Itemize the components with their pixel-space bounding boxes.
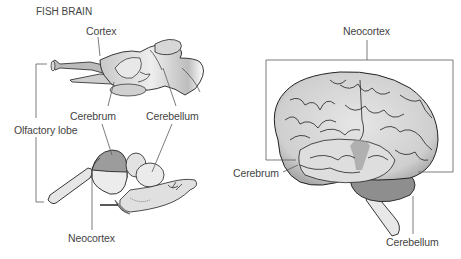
fish-olfactory-lobe-label: Olfactory lobe <box>14 124 77 136</box>
fish-cortex-label: Cortex <box>86 25 116 37</box>
human-cerebrum-label: Cerebrum <box>233 167 279 179</box>
fish-cerebrum-label: Cerebrum <box>70 110 116 122</box>
fish-neocortex-label: Neocortex <box>68 232 115 244</box>
human-neocortex-label: Neocortex <box>343 25 390 37</box>
fish-cerebellum-label: Cerebellum <box>146 110 199 122</box>
human-cerebellum-label: Cerebellum <box>386 236 439 248</box>
fish-brain-title: FISH BRAIN <box>36 6 92 18</box>
fish-brain-top-view <box>48 150 197 214</box>
human-brain <box>274 72 438 236</box>
fish-brain-side-view <box>51 39 204 96</box>
